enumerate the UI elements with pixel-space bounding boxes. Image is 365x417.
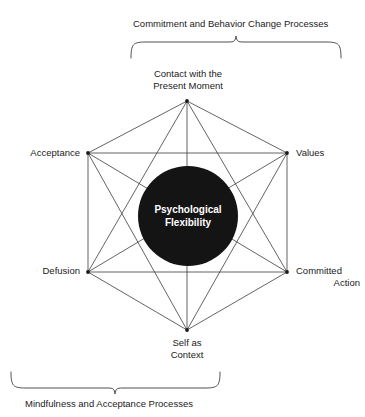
node-label-self-as-context: Self as Context	[147, 337, 227, 361]
node-label-self-as-context-line2: Context	[147, 349, 227, 361]
node-label-committed-action: Committed Action	[296, 265, 360, 289]
edge-committed-selfcontext	[187, 272, 287, 330]
top-bracket	[131, 36, 341, 58]
vertex-present-moment	[185, 99, 189, 103]
node-label-defusion: Defusion	[2, 265, 80, 277]
vertex-committed-action	[285, 270, 289, 274]
node-label-present-moment-line1: Contact with the	[132, 68, 244, 80]
node-label-acceptance: Acceptance	[2, 147, 80, 159]
node-label-committed-action-line1: Committed	[296, 265, 360, 277]
vertex-self-as-context	[185, 328, 189, 332]
edge-selfcontext-defusion	[88, 272, 187, 330]
bottom-bracket-caption: Mindfulness and Acceptance Processes	[25, 398, 193, 410]
bottom-bracket	[11, 372, 220, 394]
vertex-acceptance	[86, 151, 90, 155]
node-label-committed-action-line2: Action	[296, 277, 360, 289]
core-label: Psychological Flexibility	[108, 203, 268, 229]
hexaflex-diagram: Psychological Flexibility Commitment and…	[0, 0, 365, 417]
core-label-line1: Psychological	[108, 203, 268, 216]
top-bracket-caption: Commitment and Behavior Change Processes	[133, 18, 328, 30]
vertex-values	[285, 151, 289, 155]
node-label-present-moment-line2: Present Moment	[132, 80, 244, 92]
node-label-self-as-context-line1: Self as	[147, 337, 227, 349]
core-label-line2: Flexibility	[108, 216, 268, 229]
node-label-present-moment: Contact with the Present Moment	[132, 68, 244, 92]
node-label-values: Values	[296, 147, 324, 159]
vertex-defusion	[86, 270, 90, 274]
